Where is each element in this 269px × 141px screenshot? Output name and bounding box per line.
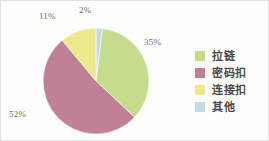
slice-label-connector: 11% bbox=[39, 11, 56, 21]
legend-item-other[interactable]: 其他 bbox=[195, 99, 267, 115]
legend-item-zipper[interactable]: 拉链 bbox=[195, 48, 267, 64]
legend-label-connector: 连接扣 bbox=[212, 85, 247, 96]
legend-label-zipper: 拉链 bbox=[212, 51, 235, 62]
legend-label-lock: 密码扣 bbox=[212, 68, 247, 79]
legend-swatch-icon-lock bbox=[195, 68, 205, 78]
pie-slice-group bbox=[43, 28, 149, 134]
legend-item-lock[interactable]: 密码扣 bbox=[195, 65, 267, 81]
slice-label-lock: 52% bbox=[9, 109, 26, 119]
slice-label-zipper: 35% bbox=[144, 37, 161, 47]
legend-swatch-icon-connector bbox=[195, 85, 205, 95]
legend-item-connector[interactable]: 连接扣 bbox=[195, 82, 267, 98]
chart-legend: 拉链 密码扣 连接扣 其他 bbox=[195, 48, 267, 116]
pie-chart-svg bbox=[1, 1, 181, 141]
pie-chart-figure: 35% 52% 11% 2% 拉链 密码扣 连接扣 其他 bbox=[0, 0, 269, 141]
pie-chart-plot-area: 35% 52% 11% 2% bbox=[1, 1, 181, 141]
legend-swatch-icon-other bbox=[195, 102, 205, 112]
legend-label-other: 其他 bbox=[212, 102, 235, 113]
legend-swatch-icon-zipper bbox=[195, 51, 205, 61]
slice-label-other: 2% bbox=[79, 5, 91, 15]
